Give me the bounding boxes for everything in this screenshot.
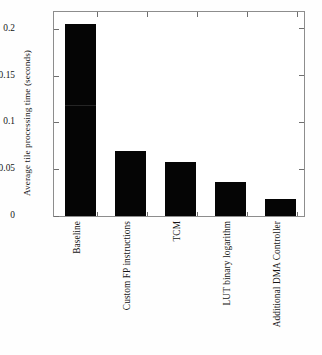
x-category-label-custom-fp: Custom FP instructions	[122, 221, 132, 310]
y-tick-mark-right-3	[299, 75, 304, 76]
x-tick-top-4	[297, 12, 298, 17]
y-axis-title: Average tile processing time (seconds)	[22, 18, 32, 228]
figure: Average tile processing time (seconds) 0…	[0, 0, 322, 355]
bar-additional-dma-controller	[265, 199, 296, 216]
x-category-label-tcm: TCM	[172, 221, 182, 241]
x-tick-top-3	[247, 12, 248, 17]
bar-tcm	[165, 162, 196, 216]
bar-custom-fp-instructions	[115, 151, 146, 216]
y-tick-label-3: 0.15	[0, 70, 15, 80]
y-tick-mark-3	[54, 76, 59, 77]
x-tick-bottom-2	[197, 212, 198, 216]
y-tick-label-4: 0.2	[3, 23, 15, 33]
x-category-label-dma-controller: Additional DMA Controller	[272, 221, 282, 327]
x-tick-top-1	[147, 12, 148, 17]
y-tick-label-1: 0.05	[0, 163, 15, 173]
y-tick-label-0: 0	[10, 210, 15, 220]
y-tick-mark-4	[54, 29, 59, 30]
x-tick-bottom-1	[147, 212, 148, 216]
y-tick-label-2: 0.1	[3, 116, 15, 126]
x-tick-bottom-0	[97, 212, 98, 216]
y-tick-mark-right-1	[299, 169, 304, 170]
plot-area	[53, 11, 305, 217]
y-tick-mark-2	[54, 122, 59, 123]
bar-lut-binary-logarithm	[215, 182, 246, 216]
x-tick-bottom-3	[247, 212, 248, 216]
y-tick-mark-right-2	[299, 122, 304, 123]
x-tick-bottom-4	[297, 212, 298, 216]
y-tick-mark-1	[54, 169, 59, 170]
y-tick-mark-0	[54, 216, 59, 217]
x-category-label-lut: LUT binary logarithm	[222, 221, 232, 305]
x-tick-top-0	[97, 12, 98, 17]
bar-baseline	[65, 24, 96, 216]
x-category-label-baseline: Baseline	[72, 221, 82, 254]
scan-artifact-line	[65, 105, 96, 106]
y-tick-mark-right-4	[299, 28, 304, 29]
x-tick-top-2	[197, 12, 198, 17]
